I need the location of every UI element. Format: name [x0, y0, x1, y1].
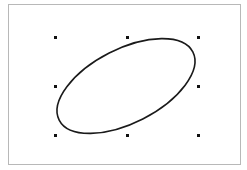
handle-middle-left[interactable] [54, 85, 57, 88]
handle-top-left[interactable] [54, 36, 57, 39]
handle-top-right[interactable] [197, 36, 200, 39]
ellipse-drawing [0, 0, 247, 170]
handle-middle-right[interactable] [197, 85, 200, 88]
handle-bottom-right[interactable] [197, 134, 200, 137]
handle-bottom-left[interactable] [54, 134, 57, 137]
handle-top-center[interactable] [126, 36, 129, 39]
handle-bottom-center[interactable] [126, 134, 129, 137]
selected-ellipse-shape[interactable] [42, 19, 209, 153]
